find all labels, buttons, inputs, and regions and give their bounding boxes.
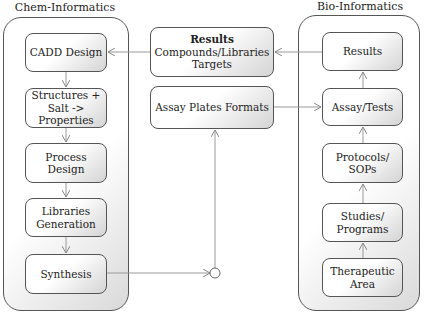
box-label: SOPs	[336, 163, 389, 176]
box-label: Area	[330, 278, 394, 291]
box-label: Programs	[337, 223, 389, 236]
box-assay-plates-formats[interactable]: Assay Plates Formats	[150, 86, 274, 129]
box-synthesis[interactable]: Synthesis	[25, 254, 107, 294]
box-label: Design	[45, 163, 86, 176]
junction-circle	[210, 268, 220, 278]
box-label: Protocols/	[336, 151, 389, 164]
box-label: Targets	[155, 58, 270, 71]
box-label: Process	[45, 151, 86, 164]
box-label: Results	[343, 45, 382, 58]
box-label: Libraries	[36, 205, 96, 218]
box-heading: Results	[155, 33, 270, 46]
box-label: Synthesis	[40, 268, 91, 281]
box-label: Assay Plates Formats	[155, 101, 269, 114]
box-protocols-sops[interactable]: Protocols/ SOPs	[322, 143, 403, 183]
box-assay-tests[interactable]: Assay/Tests	[322, 88, 403, 126]
box-label: Studies/	[337, 210, 389, 223]
box-label: Properties	[32, 114, 101, 127]
box-label: Assay/Tests	[332, 101, 394, 114]
box-cadd-design[interactable]: CADD Design	[25, 33, 107, 72]
box-libraries-generation[interactable]: Libraries Generation	[25, 198, 107, 237]
box-process-design[interactable]: Process Design	[25, 143, 107, 183]
box-label: Generation	[36, 218, 96, 231]
box-label: CADD Design	[30, 46, 103, 59]
box-label: Structures +	[32, 89, 101, 102]
box-studies-programs[interactable]: Studies/ Programs	[322, 203, 403, 242]
box-label: Therapeutic	[330, 265, 394, 278]
box-structures-salt-properties[interactable]: Structures + Salt -> Properties	[25, 88, 107, 128]
box-results-compounds-targets[interactable]: Results Compounds/Libraries Targets	[150, 27, 274, 77]
box-therapeutic-area[interactable]: Therapeutic Area	[322, 258, 403, 297]
box-label: Compounds/Libraries	[155, 46, 270, 59]
box-bio-results[interactable]: Results	[322, 32, 403, 71]
box-label: Salt ->	[32, 102, 101, 115]
